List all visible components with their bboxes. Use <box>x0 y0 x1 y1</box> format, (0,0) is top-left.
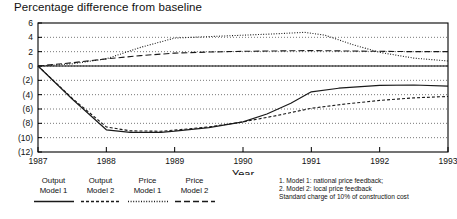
svg-text:(6): (6) <box>23 104 34 114</box>
svg-text:Year: Year <box>232 168 255 175</box>
legend-item: PriceModel 2 <box>171 176 218 202</box>
legend-swatch-long-dash <box>175 197 215 202</box>
legend-swatch-solid <box>34 197 74 202</box>
svg-text:6: 6 <box>28 18 33 28</box>
legend-item-label-bottom: Model 2 <box>77 186 124 196</box>
svg-text:1992: 1992 <box>370 156 389 166</box>
svg-text:2: 2 <box>28 47 33 57</box>
svg-text:1993: 1993 <box>439 156 457 166</box>
legend-item: OutputModel 2 <box>77 176 124 202</box>
note-line-3: Standard charge of 10% of construction c… <box>279 193 409 201</box>
legend-item: OutputModel 1 <box>30 176 77 202</box>
svg-text:4: 4 <box>28 32 33 42</box>
svg-text:0: 0 <box>28 61 33 71</box>
legend-item-label-bottom: Model 1 <box>124 186 171 196</box>
legend-item-label-top: Price <box>171 176 218 186</box>
legend-item-label-top: Price <box>124 176 171 186</box>
svg-text:(2): (2) <box>23 75 34 85</box>
svg-text:1991: 1991 <box>302 156 321 166</box>
svg-text:(4): (4) <box>23 90 34 100</box>
legend-item-label-bottom: Model 1 <box>30 186 77 196</box>
series-line <box>38 51 448 66</box>
svg-text:1989: 1989 <box>165 156 184 166</box>
plot-area: 6420(2)(4)(6)(8)(10)(12)1987198819891990… <box>0 0 457 175</box>
note-line-2: 2. Model 2: local price feedback <box>279 185 409 193</box>
legend-item-label-top: Output <box>30 176 77 186</box>
note-line-1: 1. Model 1: national price feedback; <box>279 177 409 185</box>
legend-swatch-short-dash <box>81 197 121 202</box>
svg-text:1987: 1987 <box>29 156 48 166</box>
legend-swatch-dotted <box>128 197 168 202</box>
legend-item-label-top: Output <box>77 176 124 186</box>
chart-figure: Percentage difference from baseline 6420… <box>0 0 457 219</box>
series-line <box>38 66 448 132</box>
legend-item: PriceModel 1 <box>124 176 171 202</box>
svg-text:(10): (10) <box>18 133 33 143</box>
svg-text:(8): (8) <box>23 118 34 128</box>
chart-notes: 1. Model 1: national price feedback; 2. … <box>279 177 409 202</box>
svg-text:1988: 1988 <box>97 156 116 166</box>
legend-item-label-bottom: Model 2 <box>171 186 218 196</box>
svg-text:1990: 1990 <box>234 156 253 166</box>
chart-legend: OutputModel 1OutputModel 2PriceModel 1Pr… <box>30 176 220 202</box>
